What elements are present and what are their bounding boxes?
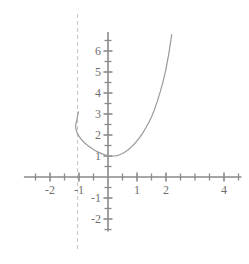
y-axis-tick-label: 4 [95, 86, 101, 100]
chart-canvas: -2-1124654321-1-2 [0, 0, 249, 264]
y-axis-tick-label: -1 [91, 191, 101, 205]
data-curve [76, 34, 172, 156]
x-axis-tick-label: -1 [74, 183, 84, 197]
x-axis-tick-label: -2 [45, 183, 55, 197]
y-axis-tick-label: 3 [95, 107, 101, 121]
y-axis-tick-label: 5 [95, 65, 101, 79]
y-axis-tick-label: 2 [95, 128, 101, 142]
y-axis-tick-label: 6 [95, 44, 101, 58]
x-axis-tick-label: 4 [221, 183, 227, 197]
x-axis-tick-label: 2 [163, 183, 169, 197]
x-axis-tick-label: 1 [134, 183, 140, 197]
coordinate-plot: -2-1124654321-1-2 [0, 0, 249, 264]
y-axis-tick-label: -2 [91, 212, 101, 226]
